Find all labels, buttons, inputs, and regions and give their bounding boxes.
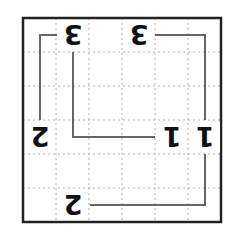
number-clue[interactable]: 3 <box>58 20 88 50</box>
number-clue[interactable]: 1 <box>190 122 220 152</box>
puzzle-grid <box>0 0 234 236</box>
number-clue[interactable]: 2 <box>58 190 88 220</box>
puzzle-board: 332112 <box>0 0 234 236</box>
connection-line <box>73 52 155 137</box>
grid-lines <box>23 18 221 222</box>
number-clue[interactable]: 2 <box>25 122 55 152</box>
number-clue[interactable]: 3 <box>124 20 154 50</box>
connection-line <box>40 35 57 120</box>
number-clue[interactable]: 1 <box>157 122 187 152</box>
connection-line <box>155 35 205 120</box>
